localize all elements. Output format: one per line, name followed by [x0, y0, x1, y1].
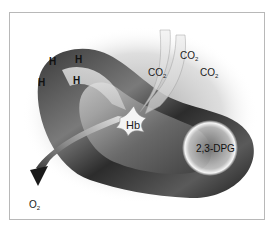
hydrogen-label-1: H	[49, 57, 56, 67]
co2-label-right: CO2	[200, 68, 218, 81]
red-blood-cell-illustration	[0, 0, 278, 229]
o2-arrowhead	[30, 166, 48, 186]
hydrogen-label-2: H	[75, 55, 82, 65]
hemoglobin-label: Hb	[126, 120, 140, 130]
hydrogen-label-3: H	[38, 78, 45, 88]
co2-label-left: CO2	[148, 68, 166, 81]
hydrogen-label-4: H	[73, 76, 80, 86]
o2-label: O2	[29, 200, 40, 213]
co2-label-top: CO2	[180, 51, 198, 64]
dpg-label: 2,3-DPG	[196, 144, 235, 154]
